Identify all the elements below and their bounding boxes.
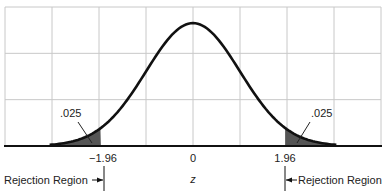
tick-label-1-96: 1.96 (274, 152, 295, 164)
axis-label-z: z (189, 173, 196, 185)
left-area-label: .025 (60, 107, 81, 119)
tick-label-neg-1-96: −1.96 (89, 152, 117, 164)
left-arrow-icon (97, 178, 103, 183)
right-rejection-label: Rejection Region (298, 174, 382, 186)
grid (5, 7, 381, 146)
tick-label-zero: 0 (190, 152, 196, 164)
left-rejection-label: Rejection Region (4, 174, 88, 186)
normal-distribution-chart: .025 .025 −1.96 0 1.96 z Rejection Regio… (0, 0, 386, 194)
right-arrow-icon (286, 178, 292, 183)
right-area-label: .025 (311, 107, 332, 119)
